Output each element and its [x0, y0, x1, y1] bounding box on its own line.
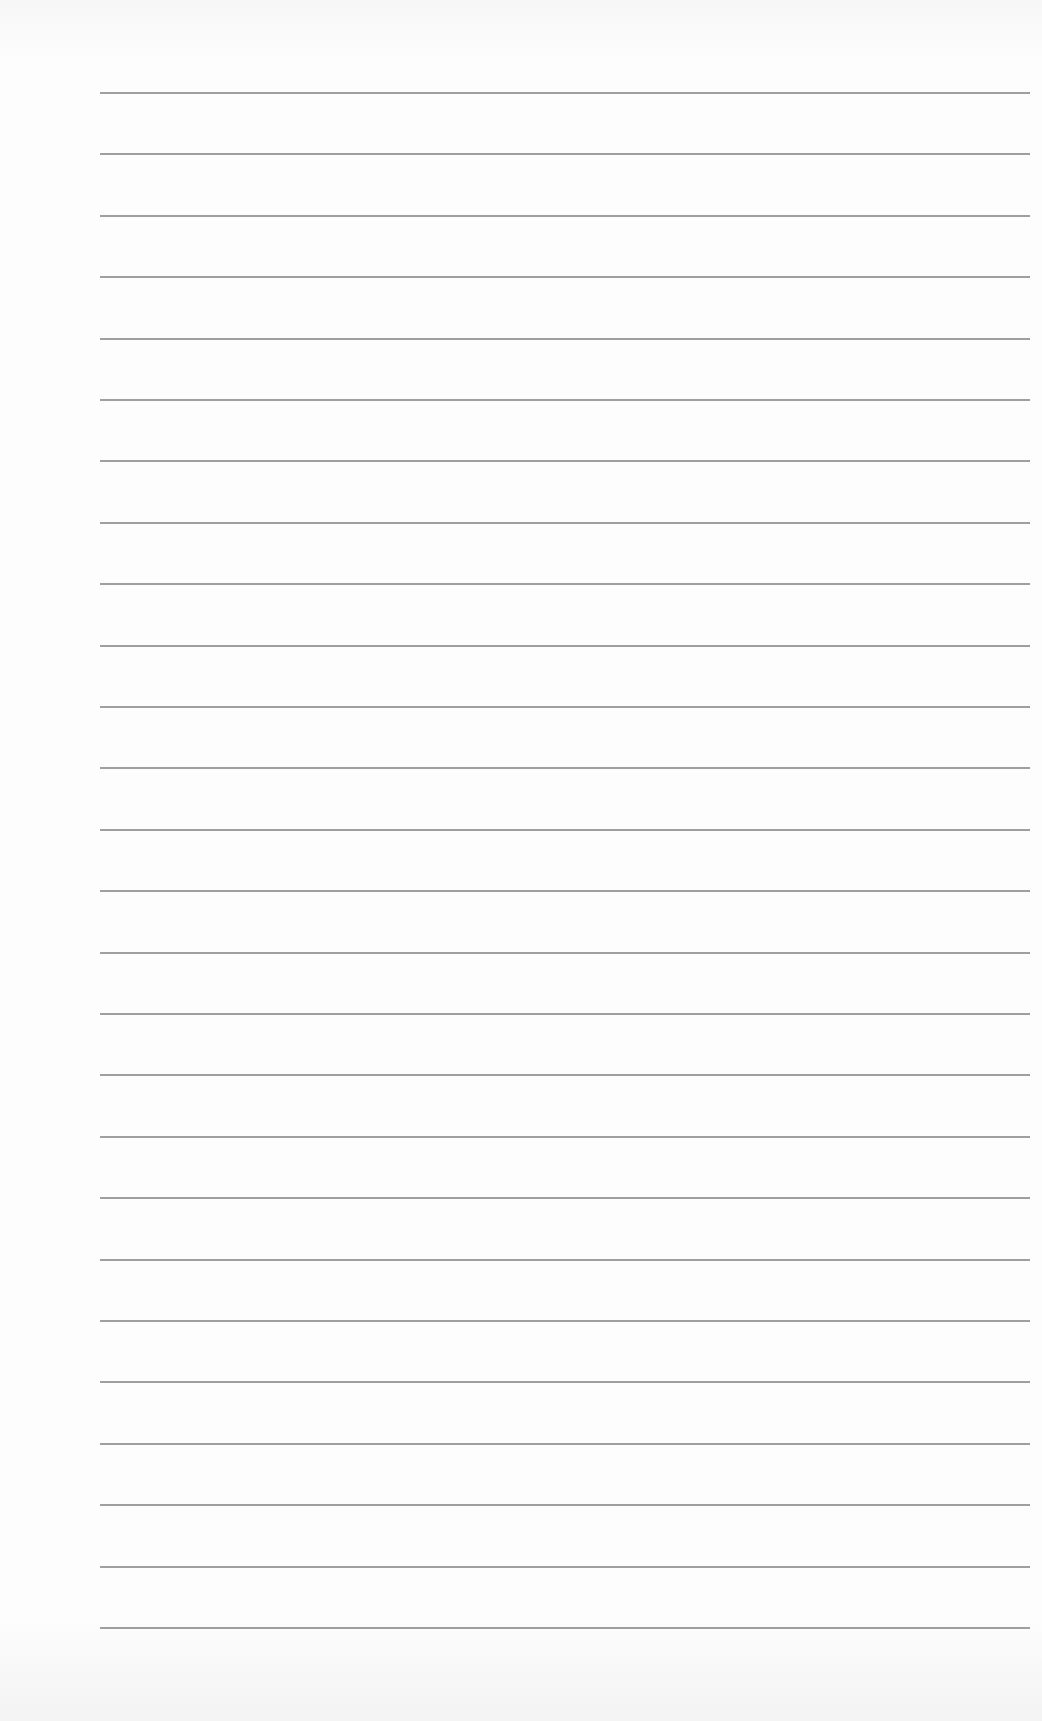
ruled-line [100, 1566, 1030, 1568]
ruled-line [100, 767, 1030, 769]
ruled-line [100, 1627, 1030, 1629]
ruled-line [100, 1259, 1030, 1261]
ruled-line [100, 1197, 1030, 1199]
ruled-line [100, 890, 1030, 892]
ruled-line [100, 1443, 1030, 1445]
ruled-line [100, 583, 1030, 585]
ruled-line [100, 1074, 1030, 1076]
ruled-line [100, 952, 1030, 954]
lined-paper-sheet [0, 0, 1042, 1721]
ruled-line [100, 1381, 1030, 1383]
ruled-line [100, 399, 1030, 401]
ruled-line [100, 1504, 1030, 1506]
ruled-line [100, 1136, 1030, 1138]
ruled-line [100, 276, 1030, 278]
ruled-line [100, 645, 1030, 647]
ruled-line [100, 338, 1030, 340]
ruled-line [100, 1320, 1030, 1322]
ruled-line [100, 215, 1030, 217]
ruled-line [100, 92, 1030, 94]
ruled-line [100, 706, 1030, 708]
ruled-line [100, 153, 1030, 155]
ruled-line [100, 522, 1030, 524]
ruled-line [100, 460, 1030, 462]
ruled-line [100, 1013, 1030, 1015]
ruled-line [100, 829, 1030, 831]
